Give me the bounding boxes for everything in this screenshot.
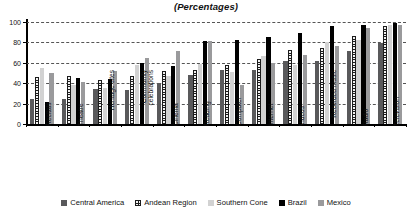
legend-swatch-icon bbox=[61, 200, 67, 206]
legend-label: Central America bbox=[70, 198, 124, 207]
x-label-cell: Radio bbox=[343, 126, 375, 184]
bar-chart: (Percentages) 020406080100 RecitalsTheat… bbox=[0, 0, 412, 218]
x-axis-label: Heritage sites bbox=[109, 70, 116, 126]
bar-group bbox=[248, 22, 280, 124]
bar bbox=[293, 65, 297, 124]
x-axis-label: Cinema bbox=[172, 103, 179, 126]
bar bbox=[257, 59, 261, 124]
bar bbox=[352, 36, 356, 124]
x-axis-label: Reading bbox=[204, 101, 211, 126]
bar bbox=[220, 70, 224, 124]
x-axis-label: Recorded music bbox=[330, 70, 337, 126]
bar bbox=[125, 90, 129, 124]
x-axis-label: Computer bbox=[235, 97, 242, 126]
x-axis-label: Internet bbox=[267, 104, 274, 126]
bar bbox=[230, 72, 234, 124]
bar bbox=[261, 56, 265, 124]
bar bbox=[30, 99, 34, 125]
x-label-cell: Recorded music bbox=[311, 126, 343, 184]
bar bbox=[315, 61, 319, 124]
bar-group bbox=[279, 22, 311, 124]
bar-group bbox=[374, 22, 406, 124]
bar bbox=[283, 61, 287, 124]
bar bbox=[347, 51, 351, 124]
y-tick-label: 40 bbox=[13, 80, 21, 87]
x-label-cell: Community celebrations bbox=[121, 126, 153, 184]
bar bbox=[93, 89, 97, 124]
x-tick-mark bbox=[406, 124, 407, 127]
bar bbox=[325, 42, 329, 124]
bar bbox=[35, 77, 39, 124]
legend-item[interactable]: Mexico bbox=[318, 198, 351, 207]
x-axis-label: Radio bbox=[362, 109, 369, 126]
x-label-cell: Recitals bbox=[26, 126, 58, 184]
bar-group bbox=[89, 22, 121, 124]
chart-legend: Central AmericaAndean RegionSouthern Con… bbox=[0, 198, 412, 207]
bar bbox=[62, 99, 66, 125]
bar bbox=[71, 85, 75, 124]
bar bbox=[288, 50, 292, 124]
bar bbox=[98, 80, 102, 124]
x-axis-labels: RecitalsTheatreHeritage sitesCommunity c… bbox=[26, 126, 406, 184]
bar bbox=[378, 43, 382, 124]
x-axis-label: Videos bbox=[299, 106, 306, 126]
legend-label: Southern Cone bbox=[217, 198, 268, 207]
x-axis-label: Community celebrations bbox=[140, 70, 154, 126]
legend-item[interactable]: Andean Region bbox=[135, 198, 196, 207]
x-label-cell: Cinema bbox=[153, 126, 185, 184]
x-label-cell: Videos bbox=[279, 126, 311, 184]
legend-swatch-icon bbox=[318, 200, 324, 206]
bar bbox=[162, 71, 166, 124]
bar bbox=[40, 68, 44, 124]
y-tick-label: 60 bbox=[13, 59, 21, 66]
chart-title: (Percentages) bbox=[0, 1, 412, 12]
legend-item[interactable]: Brazil bbox=[279, 198, 307, 207]
legend-label: Mexico bbox=[327, 198, 351, 207]
x-axis-label: Recitals bbox=[45, 103, 52, 126]
bar-group bbox=[216, 22, 248, 124]
bar bbox=[388, 25, 392, 124]
x-label-cell: Television bbox=[374, 126, 406, 184]
legend-item[interactable]: Central America bbox=[61, 198, 124, 207]
bar bbox=[320, 48, 324, 125]
bar bbox=[383, 26, 387, 124]
x-axis-label: Television bbox=[394, 97, 401, 126]
legend-label: Brazil bbox=[288, 198, 307, 207]
bar-group bbox=[26, 22, 58, 124]
x-label-cell: Computer bbox=[216, 126, 248, 184]
legend-swatch-icon bbox=[279, 200, 285, 206]
bar bbox=[225, 65, 229, 124]
bar bbox=[67, 76, 71, 124]
bar bbox=[130, 76, 134, 124]
y-tick-label: 0 bbox=[17, 121, 21, 128]
y-tick-label: 80 bbox=[13, 39, 21, 46]
x-label-cell: Reading bbox=[184, 126, 216, 184]
y-tick-label: 20 bbox=[13, 100, 21, 107]
bar bbox=[193, 70, 197, 124]
bar bbox=[166, 76, 170, 124]
x-label-cell: Heritage sites bbox=[89, 126, 121, 184]
y-tick-label: 100 bbox=[9, 19, 21, 26]
legend-item[interactable]: Southern Cone bbox=[208, 198, 268, 207]
bar-group bbox=[343, 22, 375, 124]
legend-swatch-icon bbox=[208, 200, 214, 206]
bar bbox=[356, 40, 360, 124]
bar-group bbox=[311, 22, 343, 124]
bar bbox=[135, 65, 139, 124]
x-axis-label: Theatre bbox=[77, 103, 84, 126]
legend-label: Andean Region bbox=[144, 198, 196, 207]
x-label-cell: Theatre bbox=[58, 126, 90, 184]
bar bbox=[157, 83, 161, 124]
bar-group bbox=[184, 22, 216, 124]
x-label-cell: Internet bbox=[248, 126, 280, 184]
legend-swatch-icon bbox=[135, 200, 141, 206]
bar bbox=[252, 70, 256, 124]
bar bbox=[198, 64, 202, 124]
bar bbox=[103, 88, 107, 124]
bar bbox=[188, 75, 192, 124]
